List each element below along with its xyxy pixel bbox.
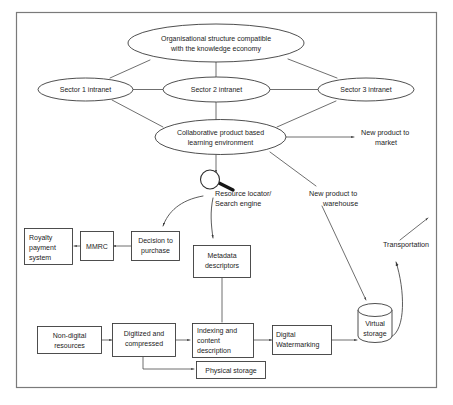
- label-new-product-to-market: New product to market: [361, 128, 409, 147]
- royalty-label-line1: Royalty: [29, 234, 53, 242]
- nondigital-label-line2: resources: [54, 342, 85, 349]
- new-product-market-line2: market: [375, 138, 397, 147]
- indexing-label-line2: content: [197, 337, 220, 344]
- virtual-storage-label-line2: storage: [363, 330, 386, 338]
- physical-storage-label: Physical storage: [205, 367, 256, 375]
- diagram-canvas: Organisational structure compatible with…: [0, 0, 453, 405]
- indexing-label-line1: Indexing and: [197, 327, 237, 335]
- transportation-label: Transportation: [383, 240, 429, 249]
- edge-sector1-to-collaborative: [112, 100, 163, 127]
- node-digital-watermarking[interactable]: Digital Watermarking: [273, 326, 332, 355]
- edge-org-to-sector1: [110, 60, 150, 78]
- node-organisational-structure[interactable]: Organisational structure compatible with…: [128, 24, 304, 62]
- edge-transportation-out: [400, 218, 428, 240]
- edge-digitized-to-physical-storage: [143, 357, 194, 369]
- watermarking-box[interactable]: [273, 326, 332, 355]
- node-mmrc[interactable]: MMRC: [81, 232, 114, 261]
- edge-search-to-metadata: [211, 198, 213, 238]
- edge-collaborative-to-warehouse: [270, 152, 316, 186]
- new-product-warehouse-line2: warehouse: [322, 199, 358, 208]
- edge-org-to-sector3: [288, 59, 337, 78]
- label-transportation: Transportation: [383, 240, 429, 249]
- resource-locator-line2: Search engine: [215, 199, 261, 208]
- node-sector1-intranet[interactable]: Sector 1 intranet: [38, 78, 133, 101]
- watermarking-label-line2: Watermarking: [276, 341, 319, 349]
- collaborative-label-line1: Collaborative product based: [177, 129, 264, 137]
- node-indexing-content-description[interactable]: Indexing and content description: [193, 324, 254, 358]
- mmrc-label: MMRC: [86, 243, 108, 250]
- node-metadata-descriptors[interactable]: Metadata descriptors: [194, 246, 251, 278]
- nondigital-label-line1: Non-digital: [53, 332, 87, 340]
- node-digitized-compressed[interactable]: Digitized and compressed: [113, 324, 176, 357]
- metadata-label-line1: Metadata: [207, 252, 236, 259]
- label-resource-locator: Resource locator/ Search engine: [215, 189, 271, 208]
- label-new-product-to-warehouse: New product to warehouse: [309, 189, 358, 208]
- node-non-digital-resources[interactable]: Non-digital resources: [38, 327, 102, 354]
- indexing-label-line3: description: [197, 347, 231, 355]
- node-sector2-intranet[interactable]: Sector 2 intranet: [163, 77, 270, 102]
- node-physical-storage[interactable]: Physical storage: [197, 362, 266, 379]
- royalty-label-line2: payment: [29, 244, 56, 252]
- virtual-storage-label-line1: Virtual: [365, 320, 385, 327]
- collaborative-label-line2: learning environment: [188, 139, 253, 147]
- new-product-warehouse-line1: New product to: [309, 189, 357, 198]
- decision-box[interactable]: [132, 232, 180, 261]
- nondigital-box[interactable]: [38, 327, 102, 354]
- resource-locator-line1: Resource locator/: [215, 189, 271, 198]
- decision-label-line2: purchase: [141, 247, 170, 255]
- node-royalty-payment-system[interactable]: Royalty payment system: [25, 229, 73, 265]
- edge-warehouse-to-virtual-storage: [322, 206, 366, 300]
- royalty-label-line3: system: [29, 254, 51, 262]
- process-diagram: Organisational structure compatible with…: [0, 0, 453, 405]
- metadata-label-line2: descriptors: [205, 262, 240, 270]
- node-sector3-intranet[interactable]: Sector 3 intranet: [318, 78, 414, 101]
- node-decision-to-purchase[interactable]: Decision to purchase: [132, 232, 180, 261]
- node-virtual-storage[interactable]: Virtual storage: [358, 304, 392, 343]
- edge-search-to-decision: [163, 196, 203, 226]
- node-collaborative-environment[interactable]: Collaborative product based learning env…: [155, 120, 286, 155]
- magnifying-glass-icon: [201, 170, 234, 190]
- sector2-label: Sector 2 intranet: [191, 86, 242, 93]
- collaborative-ellipse[interactable]: [155, 120, 286, 155]
- new-product-market-line1: New product to: [361, 128, 409, 137]
- digitized-label-line1: Digitized and: [124, 330, 165, 338]
- watermarking-label-line1: Digital: [276, 331, 296, 339]
- digitized-label-line2: compressed: [125, 340, 163, 348]
- organisational-structure-label-line2: with the knowledge economy: [170, 45, 261, 53]
- edge-sector3-to-collaborative: [277, 101, 336, 127]
- magnifier-lens: [201, 170, 220, 189]
- sector3-label: Sector 3 intranet: [340, 86, 391, 93]
- organisational-structure-ellipse[interactable]: [128, 24, 304, 62]
- sector1-label: Sector 1 intranet: [60, 86, 111, 93]
- organisational-structure-label-line1: Organisational structure compatible: [161, 35, 271, 43]
- decision-label-line1: Decision to: [138, 237, 173, 244]
- virtual-storage-cylinder-top: [358, 304, 392, 317]
- edge-virtual-storage-to-transportation: [391, 262, 403, 337]
